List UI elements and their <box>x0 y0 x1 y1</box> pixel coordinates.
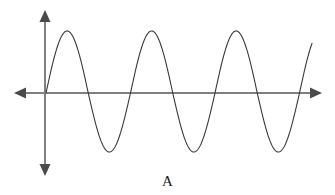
x-axis-right-arrowhead <box>310 88 322 99</box>
figure-caption-label: A <box>0 172 335 190</box>
figure-container: A <box>0 0 335 195</box>
sine-wave-diagram <box>0 0 335 195</box>
x-axis-left-arrowhead <box>14 88 26 99</box>
sine-wave-curve <box>46 31 312 152</box>
y-axis-up-arrowhead <box>40 10 51 22</box>
